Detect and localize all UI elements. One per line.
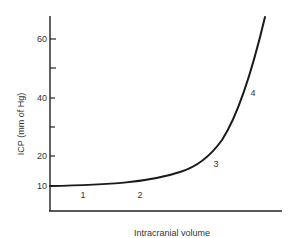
y-tick-label-10: 10 xyxy=(37,181,47,191)
region-label-2: 2 xyxy=(137,190,142,200)
x-axis-title: Intracranial volume xyxy=(134,228,210,238)
region-label-1: 1 xyxy=(80,190,85,200)
y-tick-label-40: 40 xyxy=(37,93,47,103)
y-ticks xyxy=(50,39,56,156)
region-label-3: 3 xyxy=(213,159,218,169)
y-tick-label-20: 20 xyxy=(37,151,47,161)
pressure-volume-curve xyxy=(50,17,265,186)
chart: 60 40 20 10 ICP (mm of Hg) Intracranial … xyxy=(0,0,292,238)
y-tick-label-60: 60 xyxy=(37,34,47,44)
y-axis-title: ICP (mm of Hg) xyxy=(16,93,26,155)
region-label-4: 4 xyxy=(250,88,255,98)
